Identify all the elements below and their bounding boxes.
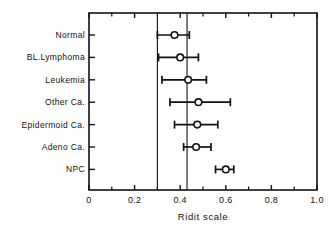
marker-open-circle-6	[223, 166, 230, 173]
data-point-0	[157, 31, 189, 39]
category-label-3: Other Ca.	[45, 98, 85, 107]
data-point-2	[162, 76, 206, 84]
category-label-6: NPC	[66, 165, 85, 174]
y-axis-ticks	[89, 35, 95, 169]
category-label-4: Epidermoid Ca.	[22, 120, 85, 129]
plot-canvas	[0, 0, 336, 232]
x-tick-label-5: 1.0	[310, 196, 323, 205]
marker-open-circle-2	[185, 77, 192, 84]
x-tick-label-3: 0.6	[219, 196, 232, 205]
x-tick-label-0: 0	[86, 196, 91, 205]
data-point-5	[184, 143, 211, 151]
category-label-1: BL.Lymphoma	[27, 53, 85, 62]
data-point-3	[170, 98, 230, 106]
marker-open-circle-1	[177, 54, 184, 61]
x-axis-title: Ridit scale	[178, 212, 228, 222]
data-series	[157, 31, 233, 173]
data-point-4	[175, 121, 218, 129]
data-point-1	[159, 53, 199, 61]
ridit-scale-chart: NormalBL.LymphomaLeukemiaOther Ca.Epider…	[0, 0, 336, 232]
x-tick-label-2: 0.4	[173, 196, 186, 205]
marker-open-circle-4	[194, 121, 201, 128]
x-tick-label-4: 0.8	[265, 196, 278, 205]
category-label-2: Leukemia	[45, 76, 85, 85]
data-point-6	[216, 165, 234, 173]
marker-open-circle-0	[171, 32, 178, 39]
category-label-0: Normal	[56, 31, 86, 40]
x-tick-label-1: 0.2	[128, 196, 141, 205]
marker-open-circle-3	[195, 99, 202, 106]
category-label-5: Adeno Ca.	[42, 143, 85, 152]
marker-open-circle-5	[193, 144, 200, 151]
